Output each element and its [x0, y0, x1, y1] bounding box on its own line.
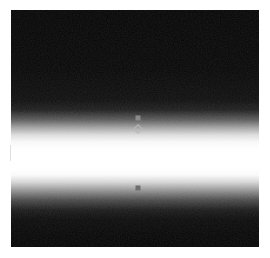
figure-caption: [6, 0, 186, 8]
left-margin-tick: [10, 145, 11, 161]
marker-upper-square: [136, 116, 141, 121]
raster-panel[interactable]: [11, 10, 259, 247]
marker-lower-square: [136, 186, 141, 191]
figure-canvas: [0, 0, 270, 258]
